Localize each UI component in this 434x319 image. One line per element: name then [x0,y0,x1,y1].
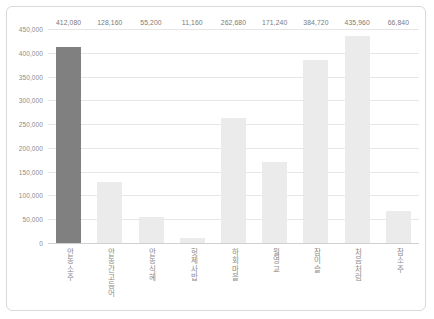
category-slot: 하회마을 [213,248,254,306]
bar-value-label: 171,240 [262,19,287,26]
y-axis-tick-label: 300,000 [19,97,43,104]
bar-value-label: 262,680 [221,19,246,26]
bar[interactable]: 435,960 [345,36,370,243]
x-axis-category-label: 안동간고등어 [106,248,114,298]
chart-frame: 450,000400,000350,000300,000250,000200,0… [6,6,426,311]
x-axis-category-label: 안동소주 [65,248,73,281]
x-axis-category-labels: 안동소주안동간고등어안동식혜헛제사밥하회마을월영교참이슬처음처럼참소주 [48,248,419,306]
category-slot: 처음처럼 [337,248,378,306]
bar[interactable]: 171,240 [262,162,287,243]
category-slot: 헛제사밥 [172,248,213,306]
y-axis-tick-label: 450,000 [19,26,43,33]
category-slot: 안동소주 [48,248,89,306]
bar[interactable]: 11,160 [180,238,205,243]
x-axis-category-label: 참이슬 [312,248,320,273]
x-axis-category-label: 헛제사밥 [189,248,197,281]
bar-value-label: 11,160 [182,19,203,26]
y-axis-tick-label: 0 [39,240,43,247]
bar-value-label: 412,080 [56,19,81,26]
bar-slot: 11,160 [172,29,213,243]
y-axis-tick-label: 400,000 [19,49,43,56]
y-axis-tick-label: 50,000 [23,216,43,223]
bar-slot: 262,680 [213,29,254,243]
bar-value-label: 66,840 [388,19,409,26]
axis-baseline [48,243,419,244]
bar-slot: 412,080 [48,29,89,243]
bar-slot: 128,160 [89,29,130,243]
bar-slot: 66,840 [378,29,419,243]
category-slot: 월영교 [254,248,295,306]
category-slot: 안동식혜 [130,248,171,306]
bar[interactable]: 55,200 [139,217,164,243]
bar[interactable]: 128,160 [97,182,122,243]
bar-value-label: 384,720 [303,19,328,26]
bar-series: 412,080128,16055,20011,160262,680171,240… [48,29,419,243]
x-axis-category-label: 참소주 [395,248,403,273]
bar-slot: 55,200 [130,29,171,243]
y-axis-tick-label: 350,000 [19,73,43,80]
y-axis-tick-label: 150,000 [19,168,43,175]
bar-value-label: 435,960 [345,19,370,26]
y-axis-tick-label: 100,000 [19,192,43,199]
bar[interactable]: 66,840 [386,211,411,243]
x-axis-category-label: 처음처럼 [353,248,361,281]
bar[interactable]: 384,720 [303,60,328,243]
y-axis-tick-label: 250,000 [19,121,43,128]
bar-value-label: 128,160 [97,19,122,26]
category-slot: 참소주 [378,248,419,306]
category-slot: 참이슬 [295,248,336,306]
bar-slot: 435,960 [337,29,378,243]
bar-slot: 171,240 [254,29,295,243]
x-axis-category-label: 하회마을 [230,248,238,281]
category-slot: 안동간고등어 [89,248,130,306]
bar[interactable]: 412,080 [56,47,81,243]
bar-value-label: 55,200 [140,19,161,26]
y-axis-tick-label: 200,000 [19,144,43,151]
x-axis-category-label: 안동식혜 [147,248,155,281]
x-axis-category-label: 월영교 [271,248,279,273]
bar[interactable]: 262,680 [221,118,246,243]
bar-slot: 384,720 [295,29,336,243]
plot-area: 450,000400,000350,000300,000250,000200,0… [48,29,419,243]
